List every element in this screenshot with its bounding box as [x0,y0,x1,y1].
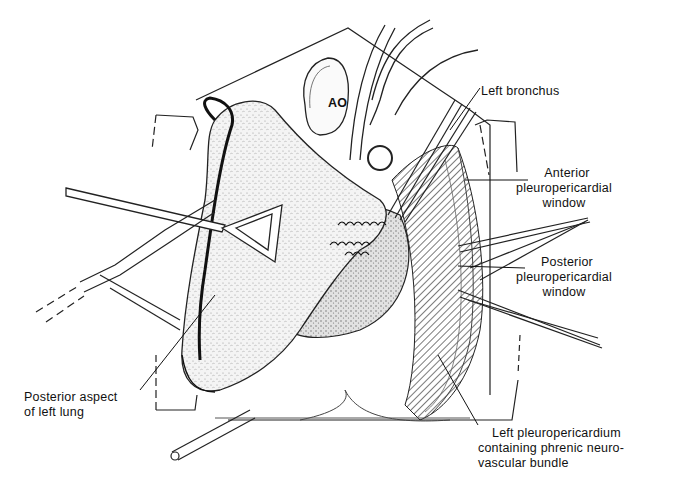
left-bronchus-label: Left bronchus [481,84,559,98]
anterior-window-label-3: window [489,196,639,210]
posterior-window-label-2: pleuropericardial [489,270,639,284]
lung-label-1: Posterior aspect [24,390,118,404]
anatomical-drawing [0,0,679,484]
posterior-window-label-1: Posterior [527,255,607,269]
pleuropericardium-label-3: vascular bundle [478,456,569,470]
anterior-window-label-1: Anterior [527,166,607,180]
pleuropericardium-label-1: Left pleuropericardium [492,426,621,440]
aorta-label: AO [328,96,347,110]
illustration-canvas [0,0,679,484]
pleuropericardium-label-2: containing phrenic neuro- [478,441,624,455]
vessel-stump [368,146,392,170]
pericardium-hatched-region [392,145,483,420]
posterior-window-label-3: window [489,285,639,299]
anterior-window-label-2: pleuropericardial [489,181,639,195]
lung-label-2: of left lung [24,405,84,419]
left-lung [182,101,386,391]
